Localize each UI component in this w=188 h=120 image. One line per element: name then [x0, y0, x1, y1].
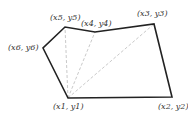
vertex-label-2: (x2, y2): [158, 102, 188, 111]
diagonal-p1-p3: [68, 24, 154, 98]
vertex-label-1: (x1, y1): [53, 102, 84, 111]
polygon-triangulation-diagram: (x1, y1) (x2, y2) (x3, y3) (x4, y4) (x5,…: [0, 0, 188, 120]
polygon-outline: [43, 24, 172, 98]
vertex-label-3: (x3, y3): [137, 9, 168, 18]
vertex-label-5: (x5, y5): [50, 13, 81, 22]
diagonal-p1-p4: [68, 32, 95, 98]
vertex-label-4: (x4, y4): [81, 19, 112, 28]
diagonal-p1-p5: [65, 27, 68, 98]
vertex-label-6: (x6, y6): [8, 43, 39, 52]
